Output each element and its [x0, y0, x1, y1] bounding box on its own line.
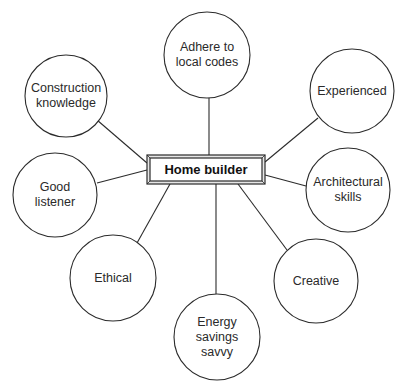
node-circle-energy [174, 294, 260, 380]
connector-line-creative [238, 184, 287, 250]
node-circle-listener [13, 153, 97, 237]
node-circle-construction [25, 55, 107, 137]
center-box [147, 155, 265, 184]
node-circles [13, 12, 394, 380]
connector-line-ethical [137, 184, 170, 243]
node-circle-adhere [164, 12, 250, 98]
connector-line-architectural [265, 175, 306, 186]
connector-line-construction [97, 120, 147, 163]
node-circle-architectural [306, 148, 390, 232]
node-circle-experienced [310, 49, 394, 133]
connector-line-experienced [265, 118, 318, 162]
center-box-inner-frame [150, 158, 262, 181]
connector-line-listener [97, 170, 147, 183]
mind-map-diagram [0, 0, 408, 390]
node-circle-creative [274, 239, 358, 323]
node-circle-ethical [70, 235, 156, 321]
